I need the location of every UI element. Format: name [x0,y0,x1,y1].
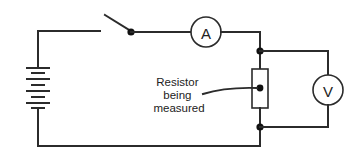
resistor-label-line-3: measured [153,102,204,114]
battery-icon [26,31,50,146]
voltmeter: V [313,75,343,105]
wire-ammeter-junction [221,32,260,69]
wire-voltmeter-junction-bottom [260,105,328,127]
circuit-diagram: A Resistor being measured V [0,0,358,157]
resistor-label: Resistor being measured [153,76,204,114]
ammeter: A [191,17,221,47]
resistor-label-line-1: Resistor [156,76,198,88]
label-leader-line [203,88,257,94]
voltmeter-symbol: V [323,83,333,100]
resistor-label-line-2: being [163,89,191,101]
wire-junction-voltmeter-top [260,51,328,75]
wire-resistor-bottom [38,108,260,146]
ammeter-symbol: A [201,25,211,42]
